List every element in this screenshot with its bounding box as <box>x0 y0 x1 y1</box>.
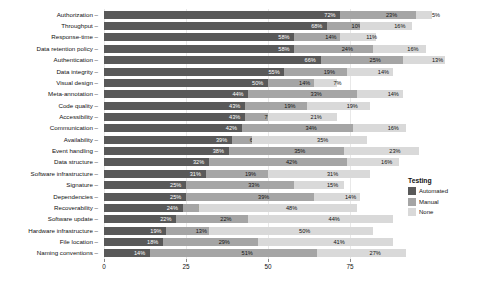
bar-group[interactable]: 32%42%16% <box>104 158 442 166</box>
segment-value-label: 16% <box>388 124 399 132</box>
category-label: Response-time – <box>51 33 98 41</box>
bar-group[interactable]: 50%14%7% <box>104 79 442 87</box>
bar-segment-manual[interactable] <box>321 56 403 64</box>
bar-group[interactable]: 25%39%14% <box>104 193 442 201</box>
bar-segment-manual[interactable] <box>340 11 415 19</box>
bar-group[interactable]: 43%19%19% <box>104 102 442 110</box>
bar-segment-none[interactable] <box>416 11 432 19</box>
bar-segment-automated[interactable] <box>104 33 294 41</box>
segment-value-label: 43% <box>229 113 240 121</box>
bar-group[interactable]: 18%29%41% <box>104 238 442 246</box>
segment-value-label: 21% <box>311 113 322 121</box>
bar-group[interactable]: 66%25%13% <box>104 56 442 64</box>
bar-segment-manual[interactable] <box>150 249 317 257</box>
legend-title: Testing <box>408 177 484 184</box>
segment-value-label: 39% <box>258 193 269 201</box>
bar-segment-none[interactable] <box>258 238 393 246</box>
chart-legend: Testing Automated Manual None <box>404 174 486 223</box>
bar-group[interactable]: 22%22%44% <box>104 215 442 223</box>
category-label: Recoverability – <box>54 204 98 212</box>
bar-group[interactable]: 24%5%48% <box>104 204 442 212</box>
bar-group[interactable]: 44%33%14% <box>104 90 442 98</box>
bar-group[interactable]: 14%51%27% <box>104 249 442 257</box>
bar-segment-automated[interactable] <box>104 56 321 64</box>
bar-segment-manual[interactable] <box>245 102 307 110</box>
category-label: Authentication – <box>54 56 98 64</box>
axis-tick <box>268 259 269 262</box>
legend-swatch-none-icon <box>408 208 416 216</box>
bar-segment-manual[interactable] <box>206 170 268 178</box>
bar-segment-none[interactable] <box>344 147 419 155</box>
segment-value-label: 68% <box>311 22 322 30</box>
segment-value-label: 48% <box>286 204 297 212</box>
bar-group[interactable]: 42%34%16% <box>104 124 442 132</box>
bar-segment-manual[interactable] <box>209 158 347 166</box>
category-label: Dependencies – <box>53 193 98 201</box>
bar-group[interactable]: 68%10%16% <box>104 22 442 30</box>
bar-group[interactable]: 38%35%23% <box>104 147 442 155</box>
bar-segment-automated[interactable] <box>104 11 340 19</box>
bar-group[interactable]: 58%24%16% <box>104 45 442 53</box>
bar-segment-automated[interactable] <box>104 22 327 30</box>
category-label: Software update – <box>48 215 98 223</box>
bar-group[interactable]: 39%6%35% <box>104 136 442 144</box>
segment-value-label: 50% <box>299 227 310 235</box>
segment-value-label: 43% <box>229 102 240 110</box>
segment-value-label: 23% <box>386 11 397 19</box>
bar-segment-automated[interactable] <box>104 68 284 76</box>
legend-item-manual[interactable]: Manual <box>408 198 484 206</box>
bar-group[interactable]: 55%19%14% <box>104 68 442 76</box>
segment-value-label: 25% <box>170 193 181 201</box>
bar-segment-automated[interactable] <box>104 147 229 155</box>
legend-label-automated: Automated <box>419 188 448 194</box>
bar-segment-manual[interactable] <box>176 215 248 223</box>
segment-value-label: 34% <box>306 124 317 132</box>
category-label: Throughput – <box>61 22 98 30</box>
bar-group[interactable]: 72%23%5% <box>104 11 442 19</box>
bar-segment-none[interactable] <box>268 170 370 178</box>
axis-tick-label: 75 <box>347 263 354 270</box>
bar-segment-automated[interactable] <box>104 79 268 87</box>
legend-item-automated[interactable]: Automated <box>408 187 484 195</box>
bar-segment-manual[interactable] <box>248 90 356 98</box>
bar-segment-manual[interactable] <box>186 193 314 201</box>
segment-value-label: 22% <box>160 215 171 223</box>
bar-segment-none[interactable] <box>307 102 369 110</box>
segment-value-label: 39% <box>216 136 227 144</box>
bar-segment-manual[interactable] <box>284 68 346 76</box>
bar-segment-manual[interactable] <box>242 124 354 132</box>
bar-segment-manual[interactable] <box>229 147 344 155</box>
bar-segment-automated[interactable] <box>104 102 245 110</box>
bar-segment-manual[interactable] <box>232 136 252 144</box>
bar-segment-automated[interactable] <box>104 90 248 98</box>
bar-segment-none[interactable] <box>252 136 367 144</box>
bar-segment-manual[interactable] <box>163 238 258 246</box>
bar-segment-manual[interactable] <box>294 45 373 53</box>
axis-tick-label: 25 <box>182 263 189 270</box>
category-label: Availability – <box>64 136 98 144</box>
axis-tick-label: 0 <box>102 263 106 270</box>
bar-group[interactable]: 19%13%50% <box>104 227 442 235</box>
category-label: Code quality – <box>58 102 98 110</box>
bar-segment-automated[interactable] <box>104 124 242 132</box>
bar-segment-automated[interactable] <box>104 136 232 144</box>
bar-group[interactable]: 25%33%15% <box>104 181 442 189</box>
bar-segment-none[interactable] <box>199 204 357 212</box>
legend-item-none[interactable]: None <box>408 208 484 216</box>
bar-segment-none[interactable] <box>248 215 392 223</box>
segment-value-label: 24% <box>342 45 353 53</box>
bar-segment-manual[interactable] <box>183 204 199 212</box>
segment-value-label: 35% <box>294 147 305 155</box>
bar-segment-none[interactable] <box>317 249 406 257</box>
bar-group[interactable]: 43%7%21% <box>104 113 442 121</box>
bar-group[interactable]: 58%14%11% <box>104 33 442 41</box>
bar-segment-none[interactable] <box>209 227 373 235</box>
segment-value-label: 42% <box>286 158 297 166</box>
category-label: Data integrity – <box>56 68 98 76</box>
bar-segment-automated[interactable] <box>104 45 294 53</box>
bar-group[interactable]: 31%19%31% <box>104 170 442 178</box>
bar-segment-automated[interactable] <box>104 113 245 121</box>
bar-segment-manual[interactable] <box>186 181 294 189</box>
category-label: Accessibility – <box>59 113 98 121</box>
bar-segment-none[interactable] <box>268 113 337 121</box>
